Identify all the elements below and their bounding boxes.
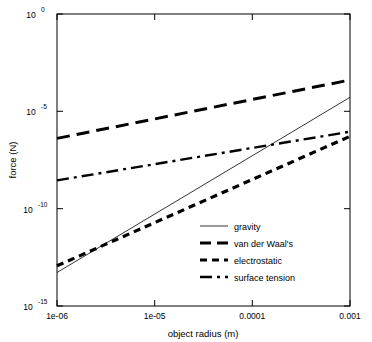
legend: gravity van der Waal's electrostatic sur… <box>200 222 295 283</box>
series-surface-tension <box>57 132 350 181</box>
y-tick-mantissa: 10 <box>23 302 33 312</box>
y-tick-exponent: -5 <box>41 103 47 110</box>
y-tick-mantissa: 10 <box>23 205 33 215</box>
legend-label-gravity: gravity <box>234 222 261 232</box>
y-tick-label-1: 10 -5 <box>26 103 47 117</box>
y-axis-ticks <box>57 14 350 306</box>
y-tick-mantissa: 10 <box>26 10 36 20</box>
line-chart: 10 0 10 -5 10 -10 10 -15 1e-06 1e-05 0.0… <box>0 0 372 342</box>
y-axis-label: force (N) <box>7 142 18 179</box>
series-van-der-waals <box>57 80 350 138</box>
x-tick-label-2: 0.0001 <box>239 311 265 321</box>
y-tick-mantissa: 10 <box>26 107 36 117</box>
series-electrostatic <box>57 136 350 265</box>
y-tick-label-3: 10 -15 <box>23 298 48 312</box>
legend-label-electrostatic: electrostatic <box>234 256 283 266</box>
y-tick-exponent: -15 <box>38 298 48 305</box>
chart-container: 10 0 10 -5 10 -10 10 -15 1e-06 1e-05 0.0… <box>0 0 372 342</box>
y-tick-label-2: 10 -10 <box>23 201 48 215</box>
x-tick-label-0: 1e-06 <box>46 311 68 321</box>
x-tick-label-1: 1e-05 <box>144 311 166 321</box>
legend-label-van-der-waals: van der Waal's <box>234 239 293 249</box>
x-axis-ticks <box>57 14 350 306</box>
y-tick-exponent: -10 <box>38 201 48 208</box>
x-axis-label: object radius (m) <box>168 328 239 339</box>
legend-label-surface-tension: surface tension <box>234 273 295 283</box>
y-tick-label-0: 10 0 <box>26 6 45 20</box>
plot-frame <box>57 14 350 306</box>
y-tick-exponent: 0 <box>41 6 45 13</box>
x-tick-label-3: 0.001 <box>339 311 361 321</box>
